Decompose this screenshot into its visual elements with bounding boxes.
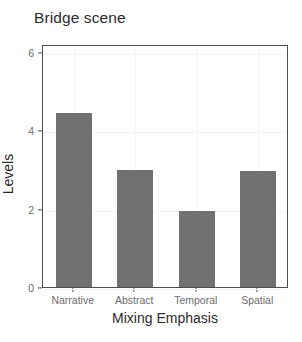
x-tick-label: Spatial [222,294,292,306]
chart-title: Bridge scene [34,9,126,27]
bar [56,113,92,287]
bar [117,170,153,287]
gridline-horizontal [43,289,287,290]
plot-panel [42,45,288,288]
y-tick-label: 6 [0,47,34,59]
y-axis-label: Levels [0,144,16,204]
x-axis-label: Mixing Emphasis [42,310,288,326]
y-tick-label: 2 [0,204,34,216]
x-tick-label: Abstract [99,294,169,306]
x-tick-label: Temporal [161,294,231,306]
gridline-horizontal [43,54,287,55]
x-tick-label: Narrative [38,294,108,306]
y-tick-label: 0 [0,282,34,294]
y-tick-label: 4 [0,125,34,137]
bar-chart: Bridge scene Levels 0246 NarrativeAbstra… [0,0,302,342]
bar [179,211,215,287]
bar [240,171,276,287]
